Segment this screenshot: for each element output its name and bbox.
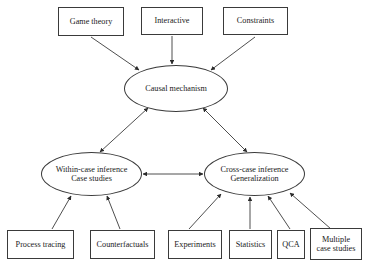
edge-qca-to-cross-case-inference bbox=[268, 196, 290, 229]
node-causal-mechanism-label: Causal mechanism bbox=[143, 84, 209, 93]
node-constraints-label: Constraints bbox=[235, 16, 276, 25]
node-experiments[interactable]: Experiments bbox=[168, 230, 222, 259]
node-interactive-label: Interactive bbox=[152, 16, 191, 25]
edge-process-tracing-to-within-case-inference bbox=[52, 196, 71, 229]
edge-layer bbox=[0, 0, 366, 264]
edge-game-theory-to-causal-mechanism bbox=[91, 37, 139, 70]
node-statistics-label: Statistics bbox=[234, 240, 268, 249]
edge-causal-mechanism-to-within-case-inference bbox=[100, 108, 148, 152]
node-cross-case-inference-label: Cross-case inference Generalization bbox=[219, 165, 291, 183]
causal-mechanism-diagram: Game theory Interactive Constraints Caus… bbox=[0, 0, 366, 264]
node-multiple-case-studies[interactable]: Multiple case studies bbox=[310, 228, 362, 260]
node-interactive[interactable]: Interactive bbox=[141, 7, 203, 35]
node-within-case-inference-label: Within-case inference Case studies bbox=[54, 165, 130, 183]
node-within-case-inference[interactable]: Within-case inference Case studies bbox=[41, 152, 142, 196]
node-causal-mechanism[interactable]: Causal mechanism bbox=[124, 65, 228, 112]
node-game-theory-label: Game theory bbox=[68, 17, 115, 26]
edge-counterfactuals-to-within-case-inference bbox=[107, 196, 120, 229]
node-process-tracing-label: Process tracing bbox=[14, 240, 68, 249]
edge-multiple-case-studies-to-cross-case-inference bbox=[290, 193, 331, 229]
edge-experiments-to-cross-case-inference bbox=[189, 194, 221, 229]
node-qca[interactable]: QCA bbox=[277, 230, 305, 259]
edge-causal-mechanism-to-cross-case-inference bbox=[203, 108, 247, 152]
node-cross-case-inference[interactable]: Cross-case inference Generalization bbox=[204, 152, 305, 196]
node-counterfactuals[interactable]: Counterfactuals bbox=[90, 230, 155, 259]
node-qca-label: QCA bbox=[280, 240, 301, 249]
edge-constraints-to-causal-mechanism bbox=[211, 37, 255, 70]
node-game-theory[interactable]: Game theory bbox=[58, 7, 124, 36]
node-statistics[interactable]: Statistics bbox=[229, 230, 272, 259]
node-multiple-case-studies-label: Multiple case studies bbox=[315, 235, 358, 253]
node-process-tracing[interactable]: Process tracing bbox=[7, 230, 74, 259]
node-counterfactuals-label: Counterfactuals bbox=[95, 240, 151, 249]
node-experiments-label: Experiments bbox=[172, 240, 217, 249]
node-constraints[interactable]: Constraints bbox=[223, 7, 288, 35]
